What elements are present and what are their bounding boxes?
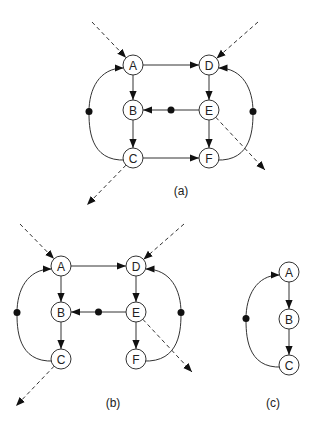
svg-text:E: E — [132, 306, 140, 320]
node-a: A — [51, 256, 71, 276]
node-b: B — [279, 309, 299, 329]
dashed-external-edge — [92, 22, 126, 58]
svg-text:C: C — [57, 353, 66, 367]
subfigure-label: (a) — [174, 184, 189, 198]
dashed-external-edge — [216, 117, 265, 170]
dashed-external-edge — [217, 22, 258, 58]
svg-text:E: E — [205, 104, 213, 118]
node-a: A — [279, 262, 299, 282]
node-b: B — [51, 302, 71, 322]
node-f: F — [126, 349, 146, 369]
arc-dot — [178, 309, 185, 316]
svg-text:A: A — [285, 266, 293, 280]
svg-text:C: C — [285, 359, 294, 373]
node-d: D — [126, 256, 146, 276]
dashed-external-edge — [20, 224, 54, 259]
graph-diagram-canvas: ABCDEF(a) ABCDEF(b) ABC(c) — [0, 0, 318, 437]
arc-edge-c-to-a — [17, 269, 54, 361]
node-f: F — [199, 148, 219, 168]
arc-dot — [86, 108, 93, 115]
node-c: C — [51, 349, 71, 369]
arc-edge-f-to-d — [216, 68, 253, 160]
svg-text:B: B — [57, 306, 65, 320]
dashed-external-edge — [144, 224, 184, 259]
subfigure-label: (b) — [106, 396, 121, 410]
arc-dot — [250, 108, 257, 115]
dashed-external-edge — [16, 366, 54, 406]
svg-text:B: B — [285, 313, 293, 327]
svg-text:A: A — [57, 260, 65, 274]
node-b: B — [123, 100, 143, 120]
svg-text:F: F — [205, 152, 212, 166]
edge-dot — [168, 107, 175, 114]
arc-dot — [14, 309, 21, 316]
diagram-c: ABC(c) — [243, 262, 300, 410]
svg-text:D: D — [132, 260, 141, 274]
svg-text:A: A — [129, 59, 137, 73]
node-c: C — [279, 355, 299, 375]
node-c: C — [123, 148, 143, 168]
dashed-external-edge — [87, 165, 126, 205]
node-d: D — [199, 55, 219, 75]
diagram-a: ABCDEF(a) — [86, 22, 266, 205]
arc-edge-c-to-a — [246, 275, 282, 367]
svg-text:C: C — [129, 152, 138, 166]
svg-text:F: F — [132, 353, 139, 367]
arc-edge-c-to-a — [89, 68, 126, 160]
svg-text:B: B — [129, 104, 137, 118]
diagram-b: ABCDEF(b) — [14, 224, 193, 410]
arc-edge-f-to-d — [143, 269, 181, 361]
subfigure-label: (c) — [266, 396, 280, 410]
node-e: E — [199, 100, 219, 120]
dashed-external-edge — [143, 319, 192, 372]
svg-text:D: D — [205, 59, 214, 73]
node-e: E — [126, 302, 146, 322]
node-a: A — [123, 55, 143, 75]
arc-dot — [243, 315, 250, 322]
edge-dot — [95, 309, 102, 316]
